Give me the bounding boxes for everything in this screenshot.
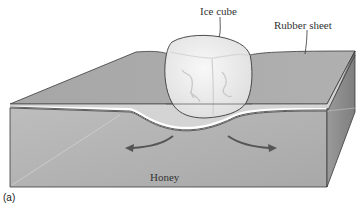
- panel-label: (a): [3, 192, 15, 203]
- rubber-sheet-leader-line: [305, 30, 307, 54]
- label-rubber-sheet: Rubber sheet: [274, 19, 332, 31]
- label-ice-cube: Ice cube: [200, 5, 237, 17]
- ice-cube: [165, 35, 252, 118]
- ice-cube-leader-line: [219, 17, 220, 37]
- ice-cube-honey-diagram: Ice cube Rubber sheet Honey (a): [0, 0, 361, 208]
- label-honey: Honey: [150, 171, 180, 183]
